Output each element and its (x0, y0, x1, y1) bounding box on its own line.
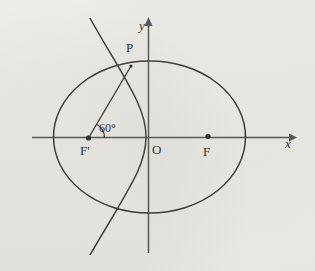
label-x-axis: x (284, 136, 291, 151)
label-origin: O (152, 142, 161, 157)
point-dot-p (129, 64, 132, 67)
label-angle-60: 60° (99, 121, 116, 135)
y-axis-arrowhead (145, 17, 153, 26)
figure-canvas: P F' F O 60° y x (0, 0, 315, 271)
label-point-f: F (203, 144, 210, 159)
label-point-f-prime: F' (80, 143, 90, 158)
point-dot-f (205, 134, 210, 139)
horizontal-axis (32, 134, 297, 142)
label-y-axis: y (137, 18, 145, 33)
hyperbola-branch (90, 18, 146, 255)
label-point-p: P (126, 40, 133, 55)
geometry-figure: P F' F O 60° y x (0, 0, 315, 271)
point-dot-f-prime (86, 135, 91, 140)
